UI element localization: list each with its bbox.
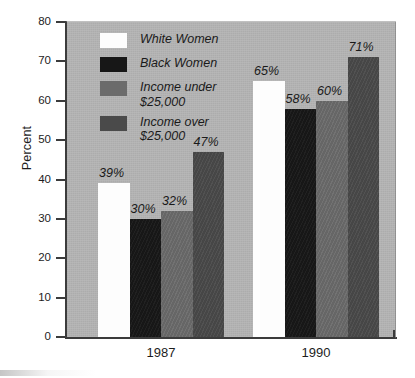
legend-item-label: Black Women (140, 56, 217, 71)
legend-item-label: Income under$25,000 (140, 80, 216, 110)
legend-item-label-line1: Black Women (140, 56, 217, 71)
y-axis-tick-label: 80 (7, 16, 51, 28)
scan-artifact (0, 370, 96, 376)
y-axis-tick-label: 0 (7, 331, 51, 343)
bar-value-label: 60% (317, 84, 342, 98)
legend-item-label-line1: Income under (140, 80, 216, 95)
legend-item-label-line2: $25,000 (140, 129, 209, 144)
bar-value-label: 71% (349, 40, 374, 54)
plot-top-edge (66, 21, 396, 22)
bar-value-label: 32% (162, 194, 187, 208)
y-axis-tick-label: 70 (7, 55, 51, 67)
y-axis-tick-label: 40 (7, 174, 51, 186)
y-axis-tick-label: 50 (7, 134, 51, 146)
legend-swatch-icon (100, 81, 127, 96)
x-axis-line (65, 337, 397, 339)
y-axis-tick-label: 10 (7, 292, 51, 304)
bar-value-label: 30% (131, 202, 156, 216)
bar (130, 219, 162, 337)
legend-item-label-line1: White Women (140, 32, 219, 47)
legend: White WomenBlack WomenIncome under$25,00… (100, 32, 290, 149)
legend-item-label: Income over$25,000 (140, 115, 209, 145)
legend-item[interactable]: Income over$25,000 (100, 115, 290, 145)
legend-item[interactable]: White Women (100, 32, 290, 51)
bar (161, 211, 193, 337)
bar-chart-figure: Percent 80706050403020100 39%65%30%58%32… (0, 0, 415, 378)
y-axis-tick-label: 60 (7, 95, 51, 107)
bar (193, 152, 225, 337)
x-axis-tick-label: 1987 (116, 345, 206, 360)
bar (316, 101, 348, 337)
plot-area: 39%65%30%58%32%60%47%71% White WomenBlac… (66, 22, 396, 337)
legend-item[interactable]: Income under$25,000 (100, 80, 290, 110)
x-axis-end-tick (393, 330, 395, 339)
y-axis-line (65, 21, 67, 339)
bar (348, 57, 380, 337)
legend-item-label-line1: Income over (140, 115, 209, 130)
legend-swatch-icon (100, 57, 127, 72)
y-axis-tick-label: 20 (7, 252, 51, 264)
plot-right-edge (395, 22, 396, 338)
bar (98, 183, 130, 337)
legend-item-label-line2: $25,000 (140, 95, 216, 110)
legend-item-label: White Women (140, 32, 219, 47)
legend-item[interactable]: Black Women (100, 56, 290, 75)
legend-swatch-icon (100, 33, 127, 48)
x-axis-tick-label: 1990 (271, 345, 361, 360)
y-axis-tick-label: 30 (7, 213, 51, 225)
bar-value-label: 39% (99, 166, 124, 180)
legend-swatch-icon (100, 116, 127, 131)
